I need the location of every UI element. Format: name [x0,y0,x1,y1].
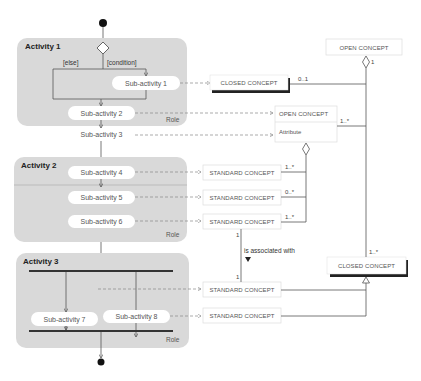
aggregation-diamond-icon [303,143,310,155]
join-bar [29,330,173,332]
activity-3: Activity 3 Role Sub-activity 7 Sub-activ… [16,253,189,351]
generalization-triangle-icon [363,277,370,283]
sub-activity-1[interactable]: Sub-activity 1 [112,76,180,90]
aggregation-diamond-icon [363,56,370,68]
standard-concept-4[interactable]: STANDARD CONCEPT [203,282,281,297]
svg-text:STANDARD CONCEPT: STANDARD CONCEPT [209,219,274,225]
svg-text:Sub-activity 8: Sub-activity 8 [115,313,157,321]
svg-text:1..*: 1..* [285,164,295,170]
svg-text:Sub-activity 6: Sub-activity 6 [80,218,122,226]
svg-text:Sub-activity 4: Sub-activity 4 [80,169,122,177]
sub-activity-5[interactable]: Sub-activity 5 [68,191,135,204]
closed-concept-2[interactable]: CLOSED CONCEPT [327,257,408,277]
guard-condition: [condition] [107,59,137,67]
activity-1-title: Activity 1 [25,42,61,51]
svg-text:Sub-activity 1: Sub-activity 1 [125,80,167,88]
activity-1-role: Role [166,116,180,123]
activity-3-role: Role [166,336,180,343]
sub-activity-2[interactable]: Sub-activity 2 [68,106,135,120]
svg-text:Attribute: Attribute [279,129,302,135]
svg-text:Sub-activity 7: Sub-activity 7 [43,316,85,324]
open-concept-attribute[interactable]: OPEN CONCEPT Attribute [275,106,337,142]
activity-1: Activity 1 Role [else] [condition] Sub-a… [17,38,187,141]
svg-text:OPEN CONCEPT: OPEN CONCEPT [279,111,328,117]
sub-activity-6[interactable]: Sub-activity 6 [68,215,135,228]
activity-2-title: Activity 2 [21,161,57,170]
sub-activity-8[interactable]: Sub-activity 8 [103,310,170,323]
svg-text:1: 1 [236,232,240,238]
svg-text:CLOSED CONCEPT: CLOSED CONCEPT [338,263,395,269]
association-label: is associated with [244,247,295,254]
standard-concept-1[interactable]: STANDARD CONCEPT [203,165,281,180]
standard-concept-2[interactable]: STANDARD CONCEPT [203,190,281,205]
svg-text:Sub-activity 5: Sub-activity 5 [80,194,122,202]
svg-text:1..*: 1..* [369,249,379,255]
open-concept-top[interactable]: OPEN CONCEPT [326,39,402,55]
svg-text:Sub-activity 2: Sub-activity 2 [80,110,122,118]
svg-text:1..*: 1..* [285,214,295,220]
svg-text:0..*: 0..* [285,189,295,195]
end-node-icon [98,359,105,366]
svg-text:1: 1 [371,59,375,65]
svg-text:CLOSED CONCEPT: CLOSED CONCEPT [220,80,277,86]
standard-concept-5[interactable]: STANDARD CONCEPT [203,308,281,323]
sub-activity-7[interactable]: Sub-activity 7 [31,312,98,326]
svg-text:STANDARD CONCEPT: STANDARD CONCEPT [209,287,274,293]
activity-2-role: Role [166,231,180,238]
svg-text:1: 1 [236,274,240,280]
activity-3-title: Activity 3 [23,257,59,266]
svg-text:OPEN CONCEPT: OPEN CONCEPT [339,45,388,51]
guard-else: [else] [63,59,79,67]
svg-text:Sub-activity 3: Sub-activity 3 [80,131,122,139]
sub-activity-3[interactable]: Sub-activity 3 [68,128,135,141]
process-deliverable-diagram: Activity 1 Role [else] [condition] Sub-a… [0,0,421,381]
svg-text:STANDARD CONCEPT: STANDARD CONCEPT [209,313,274,319]
svg-text:0..1: 0..1 [298,76,309,82]
fork-bar [29,270,173,272]
closed-concept-1[interactable]: CLOSED CONCEPT [210,75,290,93]
svg-text:STANDARD CONCEPT: STANDARD CONCEPT [209,195,274,201]
sub-activity-4[interactable]: Sub-activity 4 [68,166,135,179]
association-direction-icon [245,257,251,262]
start-node-icon [99,19,107,27]
activity-2: Activity 2 Role Sub-activity 4 Sub-activ… [14,157,187,242]
standard-concept-3[interactable]: STANDARD CONCEPT [203,214,281,229]
svg-text:1..*: 1..* [340,118,350,124]
svg-text:STANDARD CONCEPT: STANDARD CONCEPT [209,170,274,176]
